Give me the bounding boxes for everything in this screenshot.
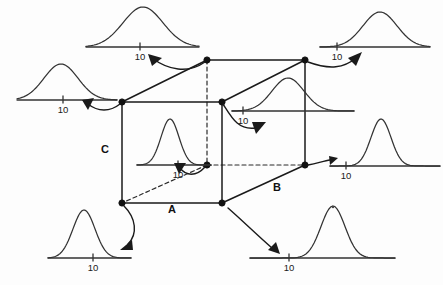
axis-tick-label: 10 — [332, 51, 343, 62]
density-curve — [330, 119, 440, 166]
arrow-head — [148, 54, 162, 66]
density-curve — [86, 7, 199, 46]
distribution-panels: 1010101010101010 — [17, 7, 440, 273]
arrow-to-right-middle — [308, 156, 338, 165]
diagram-canvas: 1010101010101010 ABC — [0, 0, 443, 285]
cube-edge — [222, 165, 305, 203]
factorial-cube-figure: 1010101010101010 ABC — [0, 0, 443, 285]
arrow-to-bottom-right — [228, 208, 280, 254]
distribution-panel-dist-center-right: 10 — [232, 78, 354, 126]
design-point-back-top-right — [302, 57, 308, 63]
cube-edge — [122, 60, 207, 102]
density-curve — [320, 12, 430, 47]
arrow-to-bottom-left — [120, 206, 134, 250]
speck-bottom-right — [332, 206, 334, 208]
density-curve — [17, 64, 117, 100]
distribution-panel-dist-bottom-right: 10 — [250, 206, 395, 273]
distribution-panel-dist-left-middle: 10 — [17, 64, 117, 115]
axis-tick-label: 10 — [284, 262, 295, 273]
distribution-panel-dist-bottom-left: 10 — [48, 210, 131, 273]
cube-hidden-edge — [122, 165, 207, 203]
arrow-head — [348, 52, 362, 66]
arrow-head — [268, 242, 280, 254]
factor-axis-labels: ABC — [101, 143, 281, 215]
arrow-shaft — [152, 58, 205, 69]
arrow-shaft — [180, 167, 205, 174]
density-curve — [48, 210, 131, 258]
axis-tick-label: 10 — [341, 170, 352, 181]
distribution-panel-dist-top-left: 10 — [86, 7, 199, 62]
axis-tick-label: 10 — [88, 262, 99, 273]
cube-edge — [222, 60, 305, 102]
design-point-front-bottom-right — [219, 200, 225, 206]
factor-b-label: B — [273, 181, 281, 193]
axis-tick-label: 10 — [135, 51, 146, 62]
arrow-head — [82, 98, 94, 110]
design-point-front-top-right — [219, 99, 225, 105]
arrow-shaft — [308, 160, 330, 165]
arrow-shaft — [228, 208, 272, 248]
distribution-panel-dist-top-right: 10 — [320, 12, 430, 62]
arrow-head — [329, 156, 338, 165]
arrow-shaft — [88, 104, 120, 110]
arrow-shaft — [124, 206, 134, 244]
arrow-head — [252, 122, 266, 134]
arrow-head — [120, 240, 133, 250]
factor-c-label: C — [101, 143, 109, 155]
axis-tick-label: 10 — [58, 104, 69, 115]
design-point-front-bottom-left — [119, 200, 125, 206]
arrow-to-top-left — [148, 54, 205, 69]
density-curve — [137, 119, 211, 165]
distribution-panel-dist-right-middle: 10 — [330, 119, 440, 181]
density-curve — [232, 78, 354, 111]
design-point-back-bottom-right — [302, 162, 308, 168]
ink-specks — [332, 206, 334, 208]
factor-a-label: A — [168, 203, 176, 215]
